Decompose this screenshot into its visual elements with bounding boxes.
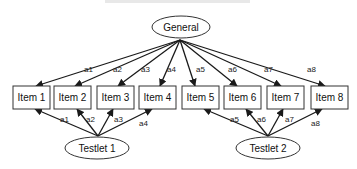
general-loading-label: a8 [307,65,316,74]
cropped-caption-strip [105,0,250,3]
testlet-loading-label: a7 [285,115,294,124]
testlet-loading-label: a8 [311,119,320,128]
general-loading-edges [36,40,325,86]
general-loading-label: a1 [84,65,93,74]
item-node: Item 7 [267,86,304,109]
bifactor-diagram: a1a2a3a4a5a6a7a8a1a2a3a4a5a6a7a8 Item 1I… [0,0,357,169]
general-loading-label: a6 [228,65,237,74]
general-factor-node: General [152,16,210,38]
item-node: Item 1 [13,86,50,109]
item-label: Item 3 [102,92,130,103]
general-loading-label: a5 [196,65,205,74]
item-label: Item 4 [144,92,172,103]
testlet-loading-label: a2 [86,115,95,124]
item-label: Item 1 [18,92,46,103]
item-boxes: Item 1Item 2Item 3Item 4Item 5Item 6Item… [13,86,348,109]
testlet-loading-label: a4 [139,119,148,128]
item-label: Item 6 [229,92,257,103]
general-loading-arrow [180,40,195,86]
general-loading-arrow [180,40,237,86]
testlet-label: Testlet 2 [249,143,287,154]
general-factor-label: General [163,22,199,33]
item-label: Item 8 [316,92,344,103]
testlet-loading-label: a1 [60,115,69,124]
item-label: Item 7 [272,92,300,103]
general-loading-label: a4 [167,65,176,74]
testlet-loading-label: a6 [257,115,266,124]
testlet-loading-label: a5 [230,115,239,124]
item-node: Item 4 [139,86,176,109]
general-loading-label: a7 [264,65,273,74]
general-loading-arrow [180,40,281,86]
item-node: Item 8 [311,86,348,109]
testlet-loading-edges [35,109,322,136]
general-loading-label: a3 [141,65,150,74]
testlet-label: Testlet 1 [78,143,116,154]
item-node: Item 5 [182,86,219,109]
item-node: Item 3 [97,86,134,109]
item-node: Item 2 [54,86,91,109]
general-loading-arrow [180,40,325,86]
item-node: Item 6 [224,86,261,109]
item-label: Item 5 [187,92,215,103]
testlet-loading-label: a3 [114,115,123,124]
general-loading-arrow [36,40,180,86]
testlet-factor-node: Testlet 2 [236,137,300,159]
general-loading-label: a2 [113,65,122,74]
item-label: Item 2 [59,92,87,103]
testlet-factor-node: Testlet 1 [65,137,129,159]
